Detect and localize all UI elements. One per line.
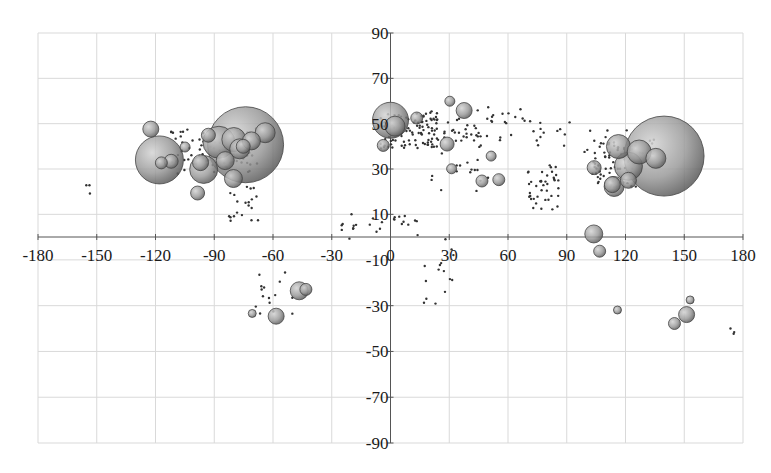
data-dot bbox=[551, 171, 553, 173]
data-dot bbox=[172, 132, 174, 134]
data-dot bbox=[550, 166, 552, 168]
data-dot bbox=[253, 187, 255, 189]
data-dot bbox=[600, 142, 602, 144]
data-dot bbox=[523, 120, 525, 122]
data-dot bbox=[563, 144, 565, 146]
bubble bbox=[668, 318, 680, 330]
data-dot bbox=[557, 195, 559, 197]
bubble bbox=[587, 161, 601, 175]
data-dot bbox=[608, 172, 610, 174]
data-dot bbox=[444, 291, 446, 293]
data-dot bbox=[434, 302, 436, 304]
x-tick-label: -30 bbox=[320, 246, 343, 265]
data-dot bbox=[246, 186, 248, 188]
data-dot bbox=[403, 147, 405, 149]
data-dot bbox=[190, 154, 192, 156]
data-dot bbox=[447, 121, 449, 123]
data-dot bbox=[556, 130, 558, 132]
data-dot bbox=[507, 112, 509, 114]
data-dot bbox=[514, 116, 516, 118]
data-dot bbox=[437, 268, 439, 270]
data-dot bbox=[604, 156, 606, 158]
data-dot bbox=[425, 120, 427, 122]
data-dot bbox=[423, 302, 425, 304]
data-dot bbox=[473, 124, 475, 126]
bubble bbox=[143, 121, 159, 137]
y-tick-label: -50 bbox=[366, 342, 389, 361]
data-dot bbox=[436, 112, 438, 114]
data-dot bbox=[258, 274, 260, 276]
data-dot bbox=[424, 265, 426, 267]
data-dot bbox=[466, 124, 468, 126]
data-dot bbox=[404, 144, 406, 146]
data-dot bbox=[428, 132, 430, 134]
data-dot bbox=[186, 128, 188, 130]
axes bbox=[38, 33, 743, 443]
x-tick-label: -90 bbox=[203, 246, 226, 265]
data-dot bbox=[418, 127, 420, 129]
data-dot bbox=[352, 227, 354, 229]
data-dot bbox=[436, 128, 438, 130]
data-dot bbox=[441, 152, 443, 154]
data-dot bbox=[407, 223, 409, 225]
data-dot bbox=[398, 215, 400, 217]
data-dot bbox=[233, 215, 235, 217]
x-tick-label: -180 bbox=[22, 246, 53, 265]
data-dot bbox=[733, 331, 735, 333]
bubble bbox=[493, 174, 505, 186]
data-dot bbox=[249, 187, 251, 189]
data-dot bbox=[532, 130, 534, 132]
data-dot bbox=[229, 192, 231, 194]
bubble bbox=[585, 225, 603, 243]
data-dot bbox=[241, 214, 243, 216]
data-dot bbox=[547, 199, 549, 201]
data-dot bbox=[551, 208, 553, 210]
data-dot bbox=[433, 133, 435, 135]
bubble bbox=[604, 177, 620, 193]
data-dot bbox=[635, 185, 637, 187]
data-dot bbox=[200, 144, 202, 146]
data-dot bbox=[540, 208, 542, 210]
y-tick-label: 10 bbox=[372, 205, 389, 224]
data-dot bbox=[199, 148, 201, 150]
bubble-chart: -180-150-120-90-60-300306090120150180907… bbox=[0, 0, 771, 473]
data-dot bbox=[597, 176, 599, 178]
data-dot bbox=[529, 120, 531, 122]
data-dot bbox=[478, 146, 480, 148]
data-dot bbox=[477, 109, 479, 111]
data-dot bbox=[458, 118, 460, 120]
data-dot bbox=[568, 121, 570, 123]
bubble bbox=[180, 142, 190, 152]
data-dot bbox=[427, 126, 429, 128]
data-dot bbox=[535, 202, 537, 204]
data-dot bbox=[475, 134, 477, 136]
bubble bbox=[594, 245, 606, 257]
data-dot bbox=[403, 141, 405, 143]
data-dot bbox=[460, 139, 462, 141]
data-dot bbox=[597, 181, 599, 183]
data-dot bbox=[430, 179, 432, 181]
data-dot bbox=[536, 139, 538, 141]
data-dot bbox=[594, 152, 596, 154]
data-dot bbox=[546, 183, 548, 185]
x-tick-label: 30 bbox=[441, 246, 458, 265]
data-dot bbox=[183, 169, 185, 171]
data-dot bbox=[435, 122, 437, 124]
data-dot bbox=[479, 135, 481, 137]
data-dot bbox=[402, 221, 404, 223]
data-dot bbox=[550, 195, 552, 197]
data-dot bbox=[244, 202, 246, 204]
data-dot bbox=[434, 129, 436, 131]
data-dot bbox=[528, 183, 530, 185]
data-dot bbox=[198, 138, 200, 140]
data-dot bbox=[279, 280, 281, 282]
data-dot bbox=[174, 137, 176, 139]
bubble bbox=[216, 152, 234, 170]
data-dot bbox=[187, 158, 189, 160]
data-dot bbox=[250, 219, 252, 221]
data-dot bbox=[255, 195, 257, 197]
bubble bbox=[236, 139, 250, 153]
data-dot bbox=[599, 146, 601, 148]
data-dot bbox=[409, 143, 411, 145]
data-dot bbox=[248, 201, 250, 203]
